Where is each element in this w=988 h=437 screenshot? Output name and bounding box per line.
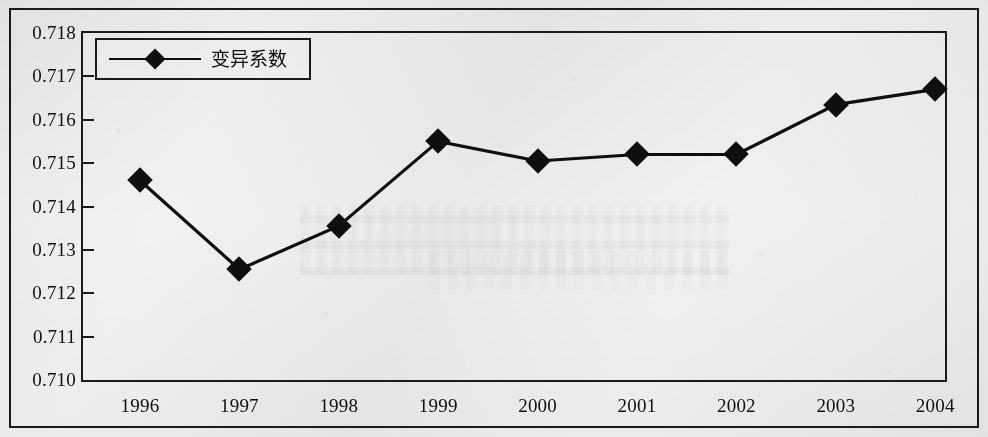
y-axis-label-0-717: 0.717 <box>4 66 76 85</box>
legend: 变异系数 <box>95 38 311 80</box>
x-axis-label-1997: 1997 <box>220 396 259 415</box>
y-axis-label-0-711: 0.711 <box>4 327 76 346</box>
x-axis-label-2000: 2000 <box>518 396 557 415</box>
y-axis-label-0-718: 0.718 <box>4 23 76 42</box>
x-axis-labels: 199619971998199920002001200220032004 <box>0 396 988 424</box>
x-axis-label-2001: 2001 <box>618 396 657 415</box>
x-axis-label-2002: 2002 <box>717 396 756 415</box>
y-axis-label-0-712: 0.712 <box>4 283 76 302</box>
y-axis-tick-0-711 <box>81 336 94 338</box>
diamond-marker-icon <box>144 48 165 69</box>
y-axis-label-0-715: 0.715 <box>4 153 76 172</box>
legend-label: 变异系数 <box>211 49 287 69</box>
y-axis-label-0-710: 0.710 <box>4 370 76 389</box>
x-axis-label-1996: 1996 <box>121 396 160 415</box>
x-axis-label-1998: 1998 <box>319 396 358 415</box>
legend-marker-sample <box>109 49 201 69</box>
x-axis-label-2003: 2003 <box>816 396 855 415</box>
y-axis-tick-0-713 <box>81 249 94 251</box>
y-axis-label-0-714: 0.714 <box>4 197 76 216</box>
x-axis-label-1999: 1999 <box>419 396 458 415</box>
y-axis-label-0-713: 0.713 <box>4 240 76 259</box>
y-axis-tick-0-715 <box>81 162 94 164</box>
y-axis-tick-0-716 <box>81 119 94 121</box>
scanned-figure-page: 0.7180.7170.7160.7150.7140.7130.7120.711… <box>0 0 988 437</box>
y-axis-tick-0-717 <box>81 75 94 77</box>
y-axis-labels: 0.7180.7170.7160.7150.7140.7130.7120.711… <box>0 0 76 437</box>
y-axis-label-0-716: 0.716 <box>4 110 76 129</box>
plot-area-frame <box>81 31 947 382</box>
y-axis-tick-0-712 <box>81 292 94 294</box>
x-axis-label-2004: 2004 <box>916 396 955 415</box>
y-axis-tick-0-714 <box>81 206 94 208</box>
